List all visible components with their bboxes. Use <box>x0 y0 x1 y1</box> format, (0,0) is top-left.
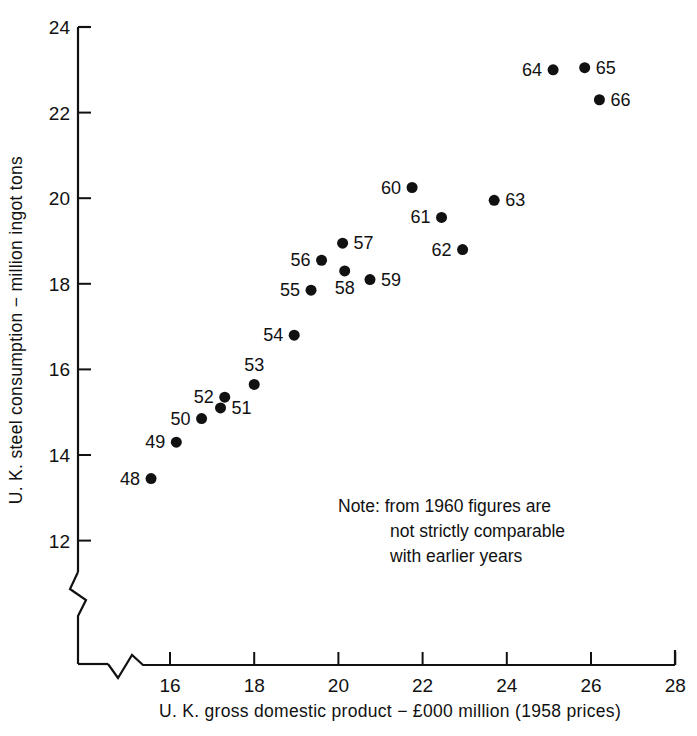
x-tick-group: 16182022242628 <box>159 652 685 696</box>
data-point[interactable] <box>407 182 418 193</box>
data-point[interactable] <box>594 94 605 105</box>
scatter-chart: 12141618202224 16182022242628 4849505152… <box>0 0 697 736</box>
data-point[interactable] <box>196 413 207 424</box>
data-point-label: 57 <box>354 233 374 253</box>
y-tick-label: 12 <box>49 531 70 552</box>
data-point-label: 50 <box>171 409 191 429</box>
data-point[interactable] <box>289 330 300 341</box>
data-point-label: 58 <box>335 278 355 298</box>
data-point[interactable] <box>219 392 230 403</box>
data-point-label: 48 <box>120 469 140 489</box>
data-point-label: 61 <box>411 207 431 227</box>
x-tick-label: 20 <box>328 675 349 696</box>
data-point[interactable] <box>364 274 375 285</box>
y-tick-label: 24 <box>49 17 71 38</box>
data-point-label: 63 <box>505 190 525 210</box>
data-point-label: 62 <box>432 240 452 260</box>
data-point-label: 54 <box>263 325 283 345</box>
data-point[interactable] <box>171 437 182 448</box>
data-point-label: 53 <box>244 355 264 375</box>
x-tick-label: 24 <box>496 675 518 696</box>
data-point[interactable] <box>306 285 317 296</box>
y-tick-label: 18 <box>49 274 70 295</box>
data-point[interactable] <box>215 402 226 413</box>
data-point[interactable] <box>146 473 157 484</box>
data-point-group: 48495051525354555657585960616263646566 <box>120 58 630 489</box>
y-axis-break-icon <box>70 572 86 664</box>
x-tick-label: 28 <box>665 675 686 696</box>
data-point-label: 59 <box>381 270 401 290</box>
data-point-label: 49 <box>145 432 165 452</box>
data-point[interactable] <box>316 255 327 266</box>
data-point-label: 55 <box>280 280 300 300</box>
x-axis <box>78 650 675 678</box>
y-tick-label: 22 <box>49 103 70 124</box>
note-line: not strictly comparable <box>390 521 565 541</box>
data-point-label: 52 <box>194 387 214 407</box>
data-point-label: 66 <box>610 90 630 110</box>
note-line: with earlier years <box>389 546 523 566</box>
x-tick-label: 16 <box>159 675 180 696</box>
data-point-label: 56 <box>291 250 311 270</box>
y-axis-title: U. K. steel consumption − million ingot … <box>6 156 26 504</box>
x-tick-label: 18 <box>244 675 265 696</box>
data-point[interactable] <box>337 238 348 249</box>
note-line: Note: from 1960 figures are <box>338 496 551 516</box>
data-point-label: 65 <box>596 58 616 78</box>
chart-canvas: 12141618202224 16182022242628 4849505152… <box>0 0 697 736</box>
data-point[interactable] <box>436 212 447 223</box>
y-tick-label: 16 <box>49 359 70 380</box>
data-point-label: 51 <box>232 398 252 418</box>
data-point[interactable] <box>339 265 350 276</box>
x-axis-title: U. K. gross domestic product − £000 mill… <box>159 701 621 721</box>
y-axis <box>70 27 90 664</box>
data-point-label: 64 <box>522 60 542 80</box>
data-point[interactable] <box>249 379 260 390</box>
chart-note: Note: from 1960 figures arenot strictly … <box>338 496 565 566</box>
data-point[interactable] <box>548 64 559 75</box>
data-point[interactable] <box>457 244 468 255</box>
x-tick-label: 26 <box>580 675 601 696</box>
x-tick-label: 22 <box>412 675 433 696</box>
y-tick-label: 14 <box>49 445 71 466</box>
data-point[interactable] <box>489 195 500 206</box>
y-tick-group: 12141618202224 <box>49 17 91 552</box>
data-point-label: 60 <box>381 178 401 198</box>
data-point[interactable] <box>579 62 590 73</box>
y-tick-label: 20 <box>49 188 70 209</box>
